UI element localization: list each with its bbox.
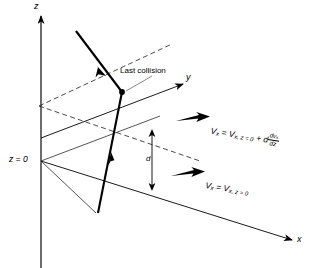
z-axis-label: z [34, 2, 39, 11]
eq-upper-frac-den: dz [267, 139, 279, 148]
eq-upper-frac-num-sub: x [276, 135, 279, 140]
velocity-arrow-upper [176, 112, 210, 122]
y-axis [41, 84, 183, 138]
velocity-arrow-lower [171, 167, 205, 177]
eq-upper-fraction: dvxdz [267, 132, 280, 148]
eq-upper-rhs-sub: x, z = 0 [234, 133, 254, 142]
last-collision-leader [126, 76, 152, 91]
upper-plane [39, 44, 206, 161]
last-collision-label: Last collision [120, 67, 166, 75]
x-axis-label: x [297, 235, 302, 244]
y-axis-label: y [186, 73, 191, 82]
particle-trajectory [63, 31, 125, 216]
x-axis [41, 161, 292, 240]
origin-label: z = 0 [9, 155, 28, 164]
upper-plane-extension [200, 158, 243, 161]
collision-dot [119, 89, 125, 95]
distance-label: d [146, 155, 150, 163]
figure-canvas: z y x z = 0 Last collision d Vx = Vx, z … [0, 0, 317, 268]
